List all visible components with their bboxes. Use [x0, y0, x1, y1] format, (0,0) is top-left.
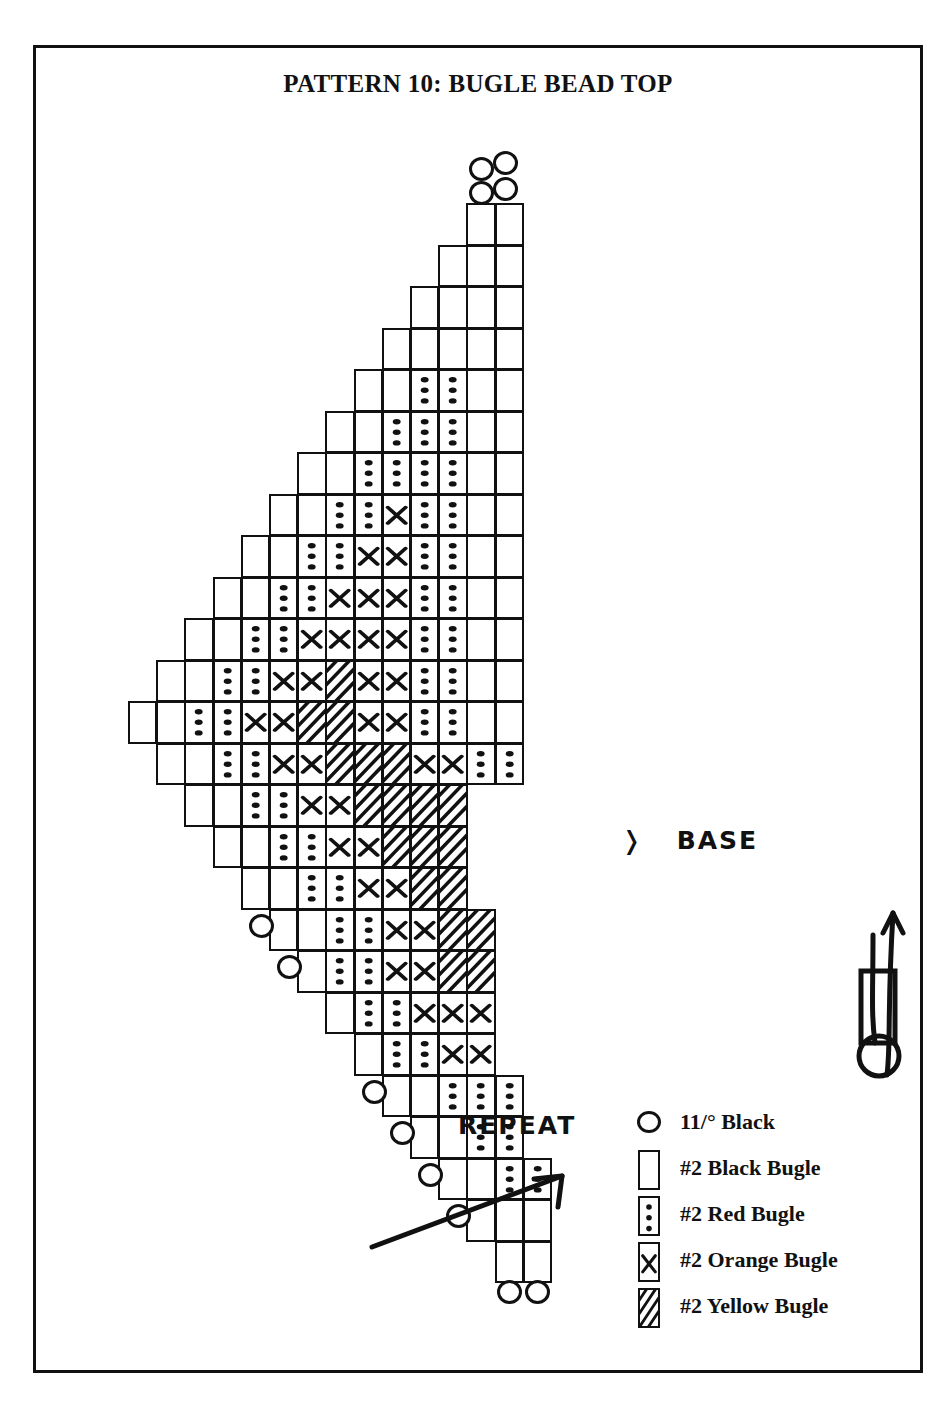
bead-yellow [382, 826, 411, 869]
bead-black [241, 867, 270, 910]
bead-yellow [297, 701, 326, 744]
bead-red [354, 494, 383, 537]
bead-red [438, 618, 467, 661]
bead-red [438, 701, 467, 744]
bead-red [325, 867, 354, 910]
bead-red [269, 826, 298, 869]
bead-red [297, 867, 326, 910]
legend-swatch-red-icon [636, 1195, 662, 1237]
bead-black [297, 909, 326, 952]
thread-path-diagram [831, 893, 941, 1093]
bead-black [184, 660, 213, 703]
bead-orange [382, 535, 411, 578]
bead-black [269, 867, 298, 910]
bead-orange [382, 494, 411, 537]
bead-seed [493, 177, 518, 201]
bead-yellow [438, 826, 467, 869]
legend-swatch-black-icon [636, 1149, 662, 1191]
repeat-arrow-icon [366, 1143, 606, 1253]
bead-red [241, 784, 270, 827]
bead-red [438, 452, 467, 495]
repeat-annotation: REPEAT [458, 1111, 576, 1140]
bead-red [410, 701, 439, 744]
bead-orange [438, 743, 467, 786]
bead-black [354, 1033, 383, 1076]
base-annotation: ❭ BASE [621, 826, 758, 855]
legend-label: #2 Orange Bugle [680, 1247, 838, 1273]
bead-black [156, 660, 185, 703]
bead-orange [410, 743, 439, 786]
bead-red [410, 577, 439, 620]
bead-black [495, 577, 524, 620]
bead-black [438, 328, 467, 371]
bead-black [156, 743, 185, 786]
bead-red [382, 411, 411, 454]
bead-black [128, 701, 157, 744]
bead-black [184, 618, 213, 661]
bead-black [466, 286, 495, 329]
bead-black [297, 494, 326, 537]
bead-orange [382, 701, 411, 744]
legend-item-orange: #2 Orange Bugle [636, 1241, 936, 1287]
bead-orange [325, 577, 354, 620]
bead-orange [325, 784, 354, 827]
bead-red [410, 660, 439, 703]
bead-yellow [438, 784, 467, 827]
bead-yellow [325, 701, 354, 744]
bead-yellow [354, 784, 383, 827]
bead-red [297, 535, 326, 578]
bead-orange [410, 909, 439, 952]
bead-black [269, 494, 298, 537]
bead-red [354, 909, 383, 952]
bead-black [213, 577, 242, 620]
bead-black [466, 328, 495, 371]
bugle-bead-icon [638, 1288, 660, 1328]
bead-orange [297, 743, 326, 786]
bead-red [410, 535, 439, 578]
bead-black [156, 701, 185, 744]
bugle-bead-icon [638, 1150, 660, 1190]
bead-yellow [466, 909, 495, 952]
bead-black [466, 411, 495, 454]
bead-seed [525, 1280, 550, 1304]
bead-black [466, 701, 495, 744]
bead-black [325, 452, 354, 495]
bead-yellow [438, 909, 467, 952]
bead-yellow [410, 826, 439, 869]
bead-black [325, 992, 354, 1035]
bead-black [466, 577, 495, 620]
bead-red [297, 577, 326, 620]
bead-orange [269, 660, 298, 703]
bead-orange [297, 618, 326, 661]
bead-yellow [410, 784, 439, 827]
bead-red [184, 701, 213, 744]
bead-black [466, 245, 495, 288]
legend-item-seed: 11/° Black [636, 1103, 936, 1149]
legend-item-black: #2 Black Bugle [636, 1149, 936, 1195]
bead-seed [497, 1280, 522, 1304]
legend-label: #2 Black Bugle [680, 1155, 821, 1181]
bead-black [241, 577, 270, 620]
bead-orange [382, 618, 411, 661]
bead-red [382, 992, 411, 1035]
seed-bead-icon [637, 1111, 661, 1133]
bugle-bead-icon [638, 1196, 660, 1236]
bead-red [410, 369, 439, 412]
bead-black [495, 452, 524, 495]
bead-black [213, 618, 242, 661]
bead-black [438, 286, 467, 329]
bead-yellow [438, 867, 467, 910]
bead-red [495, 743, 524, 786]
bead-red [325, 494, 354, 537]
bead-red [354, 992, 383, 1035]
bead-red [325, 535, 354, 578]
bead-seed [469, 157, 494, 181]
bead-red [438, 660, 467, 703]
bead-black [466, 535, 495, 578]
bead-black [269, 909, 298, 952]
bead-black [410, 286, 439, 329]
bead-orange [354, 701, 383, 744]
bead-yellow [354, 743, 383, 786]
bead-black [495, 286, 524, 329]
bead-seed [362, 1080, 387, 1104]
